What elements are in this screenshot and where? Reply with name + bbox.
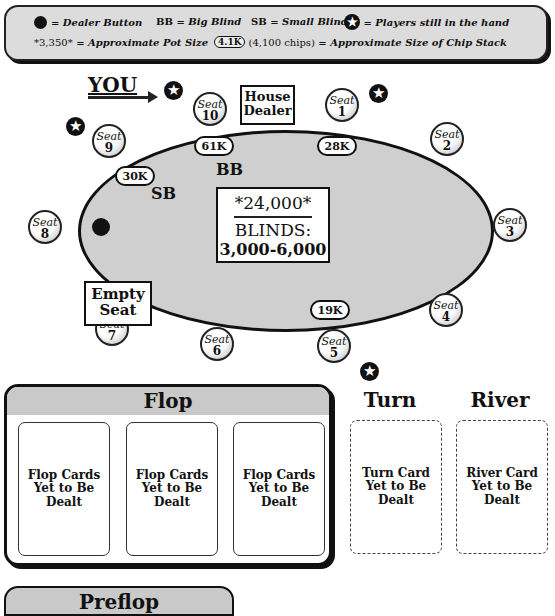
- star-icon: ★: [164, 81, 183, 100]
- seat-5[interactable]: Seat5: [317, 329, 351, 363]
- empty-seat-label: Empty Seat: [84, 281, 152, 326]
- flop-card-2: Flop CardsYet to BeDealt: [126, 422, 218, 556]
- you-arrow-icon: [88, 96, 150, 99]
- legend-sb-key: SB: [251, 16, 267, 27]
- seat-number: 1: [327, 106, 357, 118]
- star-icon: ★: [360, 362, 379, 381]
- seat-8[interactable]: Seat8: [28, 210, 62, 244]
- legend-dealer: = Dealer Button: [34, 16, 142, 29]
- star-icon: ★: [344, 14, 360, 30]
- seat-number: 9: [94, 142, 124, 154]
- flop-card-3: Flop CardsYet to BeDealt: [233, 422, 325, 556]
- flop-panel: Flop Flop CardsYet to BeDealt Flop Cards…: [4, 384, 332, 566]
- flop-title: Flop: [7, 387, 329, 415]
- card-text: Yet to Be: [243, 482, 315, 495]
- chip-stack-seat-5: 19K: [310, 300, 350, 320]
- dealer-button-icon: [92, 218, 110, 236]
- house-dealer-line2: Dealer: [242, 104, 293, 118]
- star-icon: ★: [369, 84, 388, 103]
- legend-pot-text: = Approximate Pot Size: [76, 37, 208, 48]
- turn-title: Turn: [340, 388, 440, 412]
- empty-seat-line2: Seat: [86, 303, 150, 319]
- seat-3[interactable]: Seat3: [493, 208, 527, 242]
- card-text: Dealt: [466, 494, 538, 507]
- legend-bb-text: = Big Blind: [176, 16, 241, 27]
- chip-stack-seat-9: 30K: [115, 166, 155, 186]
- legend-bb: BB = Big Blind: [156, 16, 241, 27]
- legend-chip-text: = Approximate Size of Chip Stack: [318, 37, 507, 48]
- seat-number: 6: [202, 345, 232, 357]
- blinds-label: BLINDS:: [218, 220, 328, 240]
- turn-card: Turn CardYet to BeDealt: [350, 420, 442, 554]
- river-card: River CardYet to BeDealt: [456, 420, 548, 554]
- chip-stack-icon: 4.1K: [214, 36, 245, 48]
- legend-pot-example: *3,350*: [34, 37, 73, 48]
- legend-players-text: = Players still in the hand: [363, 17, 509, 28]
- card-text: Yet to Be: [466, 480, 538, 493]
- card-text: Yet to Be: [28, 482, 100, 495]
- star-icon: ★: [66, 117, 85, 136]
- chip-stack-seat-1: 28K: [317, 136, 357, 156]
- legend-players: ★ = Players still in the hand: [344, 14, 509, 30]
- seat-number: 4: [431, 311, 461, 323]
- pot-box: *24,000* BLINDS: 3,000-6,000: [216, 187, 330, 263]
- seat-number: 3: [495, 226, 525, 238]
- next-section-title: Preflop: [79, 590, 159, 614]
- legend-bb-key: BB: [156, 16, 173, 27]
- seat-1[interactable]: Seat1: [325, 88, 359, 122]
- legend-sb: SB = Small Blind: [251, 16, 348, 27]
- card-text: Dealt: [28, 496, 100, 509]
- seat-number: 7: [97, 330, 127, 342]
- house-dealer-line1: House: [242, 90, 293, 104]
- big-blind-tag: BB: [216, 160, 243, 179]
- legend-chip-detail: (4,100 chips): [248, 37, 314, 48]
- seat-number: 2: [432, 140, 462, 152]
- seat-10[interactable]: Seat10: [193, 92, 227, 126]
- arrowhead-icon: [148, 91, 158, 103]
- legend-sb-text: = Small Blind: [270, 16, 348, 27]
- seat-6[interactable]: Seat6: [200, 327, 234, 361]
- seat-9[interactable]: Seat9: [92, 124, 126, 158]
- seat-number: 5: [319, 347, 349, 359]
- seat-2[interactable]: Seat2: [430, 122, 464, 156]
- river-title: River: [450, 388, 550, 412]
- you-label: YOU: [88, 73, 137, 97]
- card-text: Dealt: [362, 494, 430, 507]
- seat-4[interactable]: Seat4: [429, 293, 463, 327]
- blinds-value: 3,000-6,000: [218, 240, 328, 259]
- legend-dealer-text: = Dealer Button: [51, 17, 142, 28]
- card-text: Dealt: [136, 496, 208, 509]
- seat-number: 10: [195, 110, 225, 122]
- seat-number: 8: [30, 228, 60, 240]
- next-section-header: Preflop: [4, 586, 234, 616]
- house-dealer-label: House Dealer: [240, 85, 295, 125]
- legend-panel: = Dealer Button BB = Big Blind SB = Smal…: [4, 5, 548, 61]
- legend-chip: 4.1K (4,100 chips) = Approximate Size of…: [214, 36, 507, 48]
- legend-pot: *3,350* = Approximate Pot Size: [34, 37, 208, 48]
- card-text: Yet to Be: [362, 480, 430, 493]
- pot-amount: *24,000*: [234, 193, 312, 218]
- card-text: Dealt: [243, 496, 315, 509]
- dealer-button-icon: [34, 16, 47, 29]
- chip-stack-seat-10: 61K: [194, 136, 234, 156]
- flop-card-1: Flop CardsYet to BeDealt: [18, 422, 110, 556]
- card-text: Yet to Be: [136, 482, 208, 495]
- small-blind-tag: SB: [151, 184, 176, 203]
